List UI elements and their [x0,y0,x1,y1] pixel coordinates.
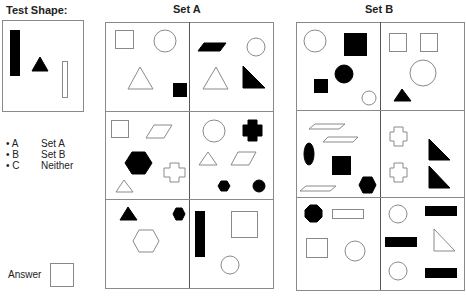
filled-poly-shape [305,205,322,222]
outline-rect-shape [116,31,134,49]
outline-poly-shape [231,152,256,165]
filled-poly-shape [243,66,265,88]
outline-poly-shape [199,152,217,165]
filled-poly-shape [359,177,376,193]
filled-poly-shape [173,208,185,220]
filled-ellipse-shape [304,143,314,165]
outline-poly-shape [390,127,407,146]
filled-poly-shape [120,207,137,220]
filled-poly-shape [218,181,230,191]
filled-rect-shape [345,34,367,56]
set-a-figures [112,30,266,274]
outline-circle-shape [410,60,436,86]
filled-rect-shape [426,207,457,216]
outline-rect-shape [232,212,258,238]
outline-rect-shape [390,34,407,52]
filled-poly-shape [243,120,262,141]
filled-poly-shape [198,43,226,51]
outline-rect-shape [112,121,129,138]
outline-poly-shape [203,67,228,89]
filled-poly-shape [32,57,48,71]
outline-poly-shape [309,124,345,129]
filled-rect-shape [426,269,457,278]
test-shape-figures [11,31,68,98]
outline-circle-shape [221,256,239,274]
outline-circle-shape [203,120,225,142]
set-b-figures [300,30,457,280]
filled-poly-shape [125,152,152,174]
outline-circle-shape [389,205,407,223]
outline-circle-shape [154,30,176,52]
outline-circle-shape [345,241,365,261]
outline-rect-shape [421,34,438,52]
outline-poly-shape [164,163,185,182]
outline-rect-shape [307,239,328,258]
filled-rect-shape [386,238,417,247]
outline-rect-shape [333,210,364,219]
filled-rect-shape [174,84,187,97]
filled-rect-shape [11,31,20,76]
outline-poly-shape [116,180,133,192]
outline-poly-shape [434,229,455,251]
outline-poly-shape [128,67,153,89]
shapes-canvas [0,0,466,298]
filled-rect-shape [196,212,205,257]
outline-poly-shape [323,137,358,142]
filled-poly-shape [394,89,411,101]
outline-circle-shape [362,91,376,105]
outline-circle-shape [389,262,407,280]
outline-poly-shape [390,163,407,182]
filled-rect-shape [333,157,351,175]
outline-rect-shape [63,62,68,98]
outline-circle-shape [247,38,265,56]
outline-poly-shape [133,230,159,252]
filled-rect-shape [315,80,328,93]
filled-circle-shape [253,180,265,192]
filled-poly-shape [429,166,450,188]
outline-circle-shape [304,30,326,52]
filled-circle-shape [335,65,353,83]
outline-poly-shape [300,186,336,191]
filled-poly-shape [429,139,450,160]
outline-poly-shape [146,125,172,138]
